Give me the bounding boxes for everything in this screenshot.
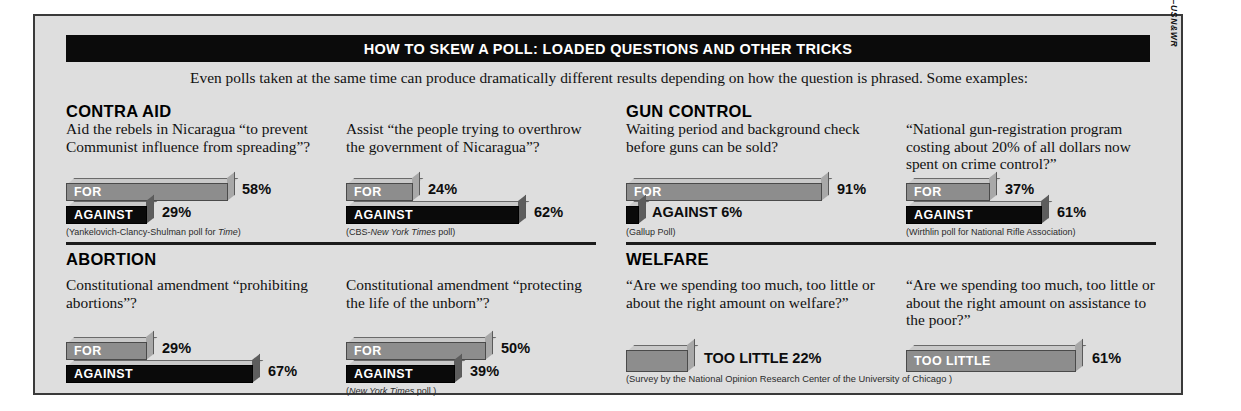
bar-row: FOR 24% [346,179,596,201]
source-pre: (Yankelovich-Clancy-Shulman poll for [66,227,218,237]
bar-label: AGAINST [67,208,133,222]
bar-label: AGAINST [67,367,133,381]
bar-against: AGAINST [346,365,455,383]
bar-chart: TOO LITTLE 22% [626,346,876,372]
bar-chart: FOR 50% [346,338,596,383]
gun-control-panels: Waiting period and background check befo… [626,120,1156,225]
bar-row: AGAINST 67% [66,361,316,383]
source-pre: (CBS- [346,227,371,237]
source-post: poll) [436,227,456,237]
source-post: poll ) [414,386,436,396]
chart-frame: HOW TO SKEW A POLL: LOADED QUESTIONS AND… [33,14,1183,395]
source-pre: (Wirthlin poll for National Rifle Associ… [906,227,1076,237]
bar-for: FOR [66,342,147,360]
contra-aid-panels: Aid the rebels in Nicaragua “to prevent … [66,120,596,225]
bar-chart: FOR 91% [626,179,876,224]
bar-label: AGAINST [347,208,413,222]
bar-row: TOO LITTLE 22% [626,346,876,372]
bar-value: 29% [162,204,191,220]
bar-chart: TOO LITTLE 61% [906,346,1156,372]
bar-face: TOO LITTLE [906,350,1076,372]
bar-value: 50% [501,340,530,356]
bar-face: FOR [66,342,147,360]
bar-row: TOO LITTLE 61% [906,346,1156,372]
section-divider [66,242,596,245]
bar-end-cap [518,195,526,224]
section-contra-aid: CONTRA AID Aid the rebels in Nicaragua “… [66,94,596,234]
bar-end-cap [146,331,154,360]
bar-label: TOO LITTLE [907,354,991,368]
bar-row: AGAINST 61% [906,202,1156,224]
bar-end-cap [252,354,260,383]
question-text: Constitutional amendment “protecting the… [346,276,596,332]
bar-row: AGAINST 29% [66,202,316,224]
welfare-panels: “Are we spending too much, too little or… [626,276,1156,373]
bar-label: AGAINST [907,208,973,222]
bar-against: AGAINST [346,206,519,224]
section-divider [626,242,1156,245]
bar-chart: FOR 37% [906,179,1156,224]
bar-value: AGAINST 6% [652,204,742,220]
bar-face: FOR [626,183,822,201]
bar-face: AGAINST [66,365,253,383]
question-text: “Are we spending too much, too little or… [626,276,876,332]
bar-label: FOR [67,185,102,199]
panel-contra-aid-1: Aid the rebels in Nicaragua “to prevent … [66,120,316,225]
bar-for: FOR [626,183,822,201]
bar-row: FOR 29% [66,338,316,360]
source-publication: New York Times [371,227,436,237]
bar-row: AGAINST 6% [626,202,876,224]
bar-value: TOO LITTLE 22% [704,350,821,366]
bar-against [626,206,639,224]
bar-end-cap [1041,195,1049,224]
question-text: “National gun-registration program costi… [906,120,1156,173]
question-text: Constitutional amendment “prohibiting ab… [66,276,316,332]
welfare-source-citation: (Survey by the National Opinion Research… [626,374,952,384]
bar-row: AGAINST 62% [346,202,596,224]
credit-publication: USN&WR [1169,5,1179,47]
half-right: GUN CONTROL Waiting period and backgroun… [626,94,1156,390]
panel-grid: CONTRA AID Aid the rebels in Nicaragua “… [66,94,1156,390]
bar-row: FOR 91% [626,179,876,201]
bar-end-cap [687,339,695,372]
bar-row: FOR 58% [66,179,316,201]
bar-end-cap [821,172,829,201]
bar-chart: FOR 24% [346,179,596,224]
infographic-page: HOW TO SKEW A POLL: LOADED QUESTIONS AND… [0,0,1241,411]
bar-end-cap [1075,339,1083,372]
half-left: CONTRA AID Aid the rebels in Nicaragua “… [66,94,596,390]
panel-gun-control-2: “National gun-registration program costi… [906,120,1156,225]
source-citation: (Gallup Poll) [626,227,676,237]
question-text: “Are we spending too much, too little or… [906,276,1156,332]
bar-value: 91% [837,181,866,197]
bar-face: AGAINST [346,365,455,383]
section-title-welfare: WELFARE [626,250,709,269]
panel-contra-aid-2: Assist “the people trying to overthrow t… [346,120,596,225]
bar-value: 39% [470,363,499,379]
bar-too-little: TOO LITTLE [906,350,1076,372]
bar-end-cap [454,354,462,383]
bar-end-cap [412,172,420,201]
section-title-abortion: ABORTION [66,250,156,269]
bar-chart: FOR 58% [66,179,316,224]
bar-face: AGAINST [906,206,1042,224]
panel-abortion-2: Constitutional amendment “protecting the… [346,276,596,384]
chart-credit: CHART BY SARAH SHAW–USN&WR [1169,0,1179,32]
bar-label: FOR [347,344,382,358]
panel-gun-control-1: Waiting period and background check befo… [626,120,876,225]
headline-text: HOW TO SKEW A POLL: LOADED QUESTIONS AND… [364,41,853,57]
bar-face: AGAINST [66,206,147,224]
bar-face [626,206,639,224]
bar-for: FOR [66,183,228,201]
bar-against: AGAINST [906,206,1042,224]
abortion-panels: Constitutional amendment “prohibiting ab… [66,276,596,384]
source-post: ) [238,227,241,237]
bar-for: FOR [906,183,990,201]
bar-label: FOR [67,344,102,358]
bar-end-cap [989,172,997,201]
bar-end-cap [485,331,493,360]
bar-for: FOR [346,342,486,360]
bar-label: FOR [907,185,942,199]
bar-value: 61% [1092,350,1121,366]
source-citation: (Yankelovich-Clancy-Shulman poll for Tim… [66,227,241,237]
